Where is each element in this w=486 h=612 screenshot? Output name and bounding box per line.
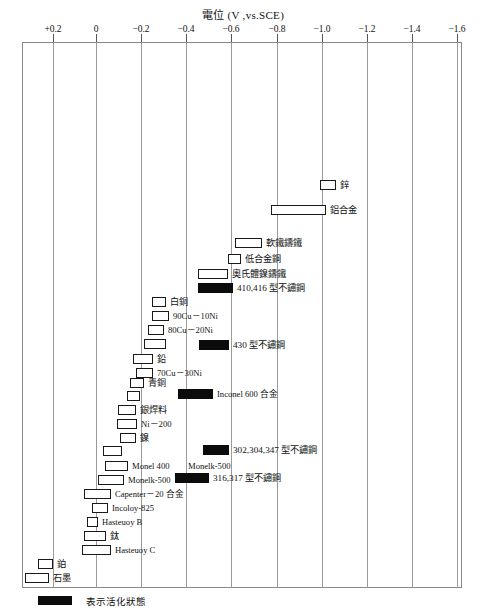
bar-label: 軟鐵鑄鐵 — [266, 238, 302, 248]
x-tick-label: −0.8 — [268, 24, 285, 34]
bar-label: Capenter－20 合金 — [115, 489, 184, 499]
bar-label: 白銅 — [170, 297, 188, 307]
series-bar — [199, 340, 229, 350]
bar-label: 410,416 型不鏽鋼 — [237, 283, 305, 293]
gridline — [322, 42, 323, 588]
gridline — [53, 42, 54, 588]
series-bar — [25, 573, 49, 583]
series-bar — [198, 283, 233, 293]
series-bar — [82, 545, 111, 555]
series-bar — [118, 405, 136, 415]
bar-label: 鈦 — [110, 531, 119, 541]
series-bar — [98, 475, 124, 485]
series-bar — [152, 297, 166, 307]
bar-label: Hasteuoy C — [115, 545, 155, 555]
gridline — [367, 42, 368, 588]
bar-label: Inconel 600 合金 — [217, 389, 278, 399]
series-bar — [127, 391, 140, 401]
bar-label: 430 型不鏽鋼 — [233, 340, 285, 350]
bar-label: Incoloy-825 — [112, 503, 154, 513]
bar-label: Hasteuoy B — [102, 517, 142, 527]
bar-label: 青銅 — [148, 378, 166, 388]
series-bar — [320, 180, 336, 190]
x-tick-label: −1.4 — [403, 24, 420, 34]
series-bar — [235, 238, 262, 248]
legend-label: 表示活化狀態 — [86, 594, 146, 608]
chart-title: 電位 (V ,vs.SCE) — [0, 6, 486, 22]
gridline — [231, 42, 232, 588]
series-bar — [105, 461, 128, 471]
bar-label: 鎳 — [140, 433, 149, 443]
bar-label: 80Cu－20Ni — [168, 325, 213, 335]
series-bar — [130, 378, 144, 388]
bar-label: Monelk-500 — [188, 461, 231, 471]
bar-label: 70Cu－30Ni — [157, 368, 202, 378]
galvanic-series-chart: 電位 (V ,vs.SCE) +0.20−0.2−0.4−0.6−0.8−1.0… — [0, 0, 486, 612]
series-bar — [84, 531, 106, 541]
series-bar — [228, 254, 241, 264]
bar-label: Monelk-500 — [128, 475, 171, 485]
series-bar — [87, 517, 98, 527]
series-bar — [117, 419, 137, 429]
bar-label: 302,304,347 型不鏽鋼 — [233, 445, 317, 455]
series-bar — [103, 446, 122, 456]
bar-label: 316,317 型不鏽鋼 — [213, 473, 281, 483]
bar-label: 銀焊料 — [140, 405, 167, 415]
series-bar — [198, 269, 228, 279]
bar-label: 奧氏體鎳鑄鐵 — [232, 269, 286, 279]
x-tick-label: −1.0 — [313, 24, 330, 34]
x-tick-label: −1.2 — [358, 24, 375, 34]
bar-label: 90Cu－10Ni — [173, 311, 218, 321]
x-tick-label: −1.6 — [448, 24, 465, 34]
series-bar — [38, 559, 53, 569]
gridline — [277, 42, 278, 588]
gridline — [412, 42, 413, 588]
series-bar — [148, 325, 164, 335]
bar-label: Ni－200 — [141, 419, 171, 429]
bar-label: 石墨 — [53, 573, 71, 583]
series-bar — [271, 205, 326, 215]
bar-label: 鋁合金 — [330, 205, 357, 215]
series-bar — [175, 473, 209, 483]
x-tick-label: −0.2 — [132, 24, 149, 34]
series-bar — [92, 503, 108, 513]
legend-active-swatch-icon — [38, 596, 72, 605]
bar-label: 鉛 — [157, 354, 166, 364]
series-bar — [133, 354, 153, 364]
series-bar — [203, 445, 229, 455]
series-bar — [136, 368, 153, 378]
x-tick-label: +0.2 — [44, 24, 61, 34]
bar-label: 低合金鋼 — [245, 254, 281, 264]
series-bar — [144, 339, 166, 349]
x-tick-label: 0 — [94, 24, 99, 34]
series-bar — [152, 311, 169, 321]
x-tick-label: −0.4 — [177, 24, 194, 34]
bar-label: 鋅 — [340, 180, 349, 190]
gridline — [457, 42, 458, 588]
series-bar — [84, 489, 111, 499]
series-bar — [178, 389, 213, 399]
bar-label: 鉑 — [57, 559, 66, 569]
plot-area — [22, 42, 462, 588]
series-bar — [120, 433, 136, 443]
bar-label: Monel 400 — [132, 461, 169, 471]
x-tick-label: −0.6 — [222, 24, 239, 34]
